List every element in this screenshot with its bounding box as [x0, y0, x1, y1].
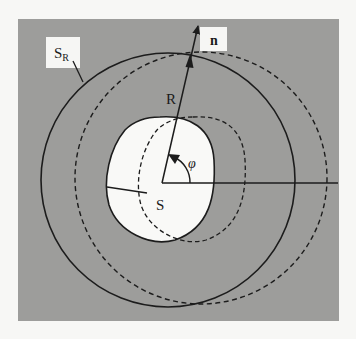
angle-label: φ: [188, 156, 196, 171]
radius-label: R: [166, 91, 176, 107]
diagram-figure: SR n R φ S: [0, 0, 356, 339]
inner-region-solid: [106, 117, 214, 242]
normal-vector-label: n: [210, 33, 218, 48]
inner-region-label: S: [156, 197, 164, 213]
